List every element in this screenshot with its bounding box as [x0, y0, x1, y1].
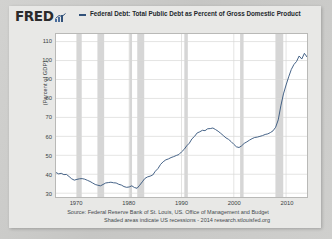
- legend-line-swatch: [79, 14, 86, 16]
- y-axis-tick-label: 100: [30, 57, 52, 63]
- y-axis-tick-label: 30: [30, 191, 52, 197]
- recession-band: [97, 34, 104, 197]
- y-axis-tick-label: 80: [30, 95, 52, 101]
- legend-series-label: Federal Debt: Total Public Debt as Perce…: [90, 10, 301, 18]
- fred-bar-chart-glyph: [55, 13, 66, 22]
- chart-legend: Federal Debt: Total Public Debt as Perce…: [79, 10, 317, 18]
- grid-lines: [56, 34, 307, 197]
- x-axis-tick-label: 1970: [61, 200, 91, 206]
- y-axis-tick-label: 50: [30, 153, 52, 159]
- recession-band: [240, 34, 243, 197]
- plot-area[interactable]: [55, 33, 308, 198]
- x-axis-tick-label: 1980: [114, 200, 144, 206]
- recession-band: [129, 34, 132, 197]
- y-axis-tick-labels: 11010090807060504030: [26, 33, 52, 198]
- recession-band: [184, 34, 188, 197]
- source-note: Source: Federal Reserve Bank of St. Loui…: [9, 209, 321, 224]
- recession-band: [77, 34, 82, 197]
- y-axis-tick-label: 40: [30, 172, 52, 178]
- recession-bands: [77, 34, 284, 197]
- recession-band: [137, 34, 144, 197]
- fred-wordmark: FRED: [15, 10, 53, 23]
- fred-chart-card: FRED Federal Debt: Total Public Debt as …: [9, 6, 321, 228]
- chart-canvas: [56, 34, 307, 197]
- chart-header: FRED Federal Debt: Total Public Debt as …: [9, 6, 321, 32]
- x-axis-tick-label: 1990: [167, 200, 197, 206]
- y-axis-tick-label: 70: [30, 114, 52, 120]
- x-axis-tick-label: 2000: [219, 200, 249, 206]
- screenshot-root: FRED Federal Debt: Total Public Debt as …: [0, 0, 332, 239]
- y-axis-tick-label: 110: [30, 38, 52, 44]
- fred-logo[interactable]: FRED: [15, 10, 66, 23]
- y-axis-tick-label: 60: [30, 134, 52, 140]
- source-line-2: Shaded areas indicate US recessions - 20…: [9, 217, 321, 225]
- x-axis-tick-label: 2010: [272, 200, 302, 206]
- source-line-1: Source: Federal Reserve Bank of St. Loui…: [9, 209, 321, 217]
- y-axis-tick-label: 90: [30, 76, 52, 82]
